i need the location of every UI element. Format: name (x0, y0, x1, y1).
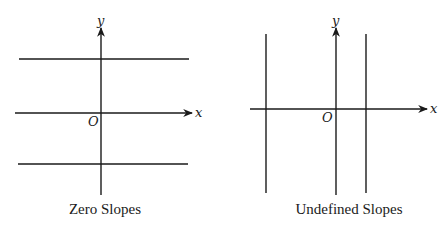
panel-title: Zero Slopes (69, 201, 141, 217)
slopes-diagram: y x O Zero Slopes y x O Undefined Slopes (0, 0, 447, 228)
x-axis-label: x (430, 101, 438, 116)
origin-label: O (322, 110, 333, 125)
y-axis-label: y (331, 13, 340, 28)
x-axis-label: x (195, 105, 203, 120)
undefined-slopes-panel: y x O Undefined Slopes (250, 13, 438, 217)
origin-label: O (88, 114, 99, 129)
panel-title: Undefined Slopes (295, 201, 402, 217)
zero-slopes-panel: y x O Zero Slopes (15, 13, 203, 217)
y-axis-label: y (96, 13, 105, 28)
